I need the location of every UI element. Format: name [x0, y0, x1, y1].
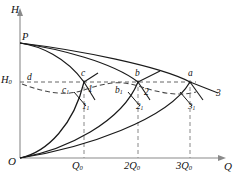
- x-tick-3q0: 3Q0: [176, 161, 192, 172]
- curve-label-2sub1: 21: [136, 102, 143, 112]
- point-label-b1: b1: [115, 86, 123, 96]
- point-label-c: c: [81, 69, 85, 79]
- curve-label-1: 1: [88, 85, 93, 95]
- curve-extensions: [84, 71, 218, 100]
- curve-label-3: 3: [216, 89, 221, 99]
- pump-characteristic-diagram: H Q O H0 Q0 2Q0 3Q0 P d c b a c1 b1 1 2 …: [0, 0, 238, 184]
- extension-pump-2: [138, 71, 160, 82]
- y-axis-label: H: [11, 4, 19, 15]
- pump-curves: [20, 43, 190, 82]
- curve-label-3sub1: 31: [188, 102, 195, 112]
- point-label-d: d: [27, 73, 32, 83]
- x-axis-label: Q: [224, 161, 232, 172]
- curve-label-2: 2: [144, 88, 149, 98]
- point-label-c1: c1: [62, 86, 69, 96]
- efficiency-dashed-curve: [22, 83, 196, 94]
- pump-curve-3: [20, 43, 190, 82]
- resistance-curves: [20, 82, 190, 158]
- point-label-a: a: [188, 69, 193, 79]
- extension-pump-1: [84, 73, 98, 82]
- x-tick-2q0: 2Q0: [124, 161, 140, 172]
- point-label-b: b: [135, 69, 140, 79]
- h0-tick-label: H0: [1, 75, 12, 86]
- point-label-p: P: [22, 32, 28, 43]
- x-tick-q0: Q0: [72, 161, 83, 172]
- curve-label-1sub1: 11: [82, 102, 89, 112]
- vertical-dashed-lines: [84, 80, 190, 158]
- origin-label: O: [8, 156, 16, 167]
